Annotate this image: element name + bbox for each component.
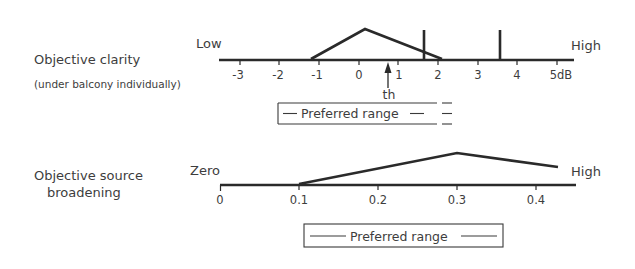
svg-text:2: 2 (434, 68, 441, 82)
svg-text:-1: -1 (311, 68, 322, 82)
svg-text:0.3: 0.3 (448, 193, 466, 207)
svg-text:0.4: 0.4 (527, 193, 545, 207)
svg-text:4: 4 (513, 68, 520, 82)
broadening-preferred-range-label: Preferred range (350, 229, 448, 244)
svg-text:3: 3 (474, 68, 481, 82)
broadening-axis (220, 185, 576, 191)
threshold-label: th (383, 87, 396, 102)
svg-text:0.1: 0.1 (290, 193, 308, 207)
clarity-distribution-triangle (311, 29, 442, 59)
clarity-preferred-range-label: Preferred range (301, 106, 399, 121)
svg-text:0: 0 (216, 193, 223, 207)
threshold-arrow-icon (385, 62, 392, 88)
svg-text:5dB: 5dB (550, 68, 573, 82)
svg-text:0: 0 (355, 68, 362, 82)
broadening-distribution-line (299, 153, 558, 184)
diagram-canvas: -3 -2 -1 0 1 2 3 4 5dB th Preferred rang… (0, 0, 635, 269)
clarity-tick-labels: -3 -2 -1 0 1 2 3 4 5dB (232, 68, 572, 82)
svg-text:-3: -3 (232, 68, 243, 82)
svg-text:0.2: 0.2 (369, 193, 387, 207)
broadening-tick-labels: 0 0.1 0.2 0.3 0.4 (216, 193, 545, 207)
svg-text:1: 1 (395, 68, 402, 82)
clarity-axis (219, 60, 574, 65)
svg-text:-2: -2 (272, 68, 283, 82)
